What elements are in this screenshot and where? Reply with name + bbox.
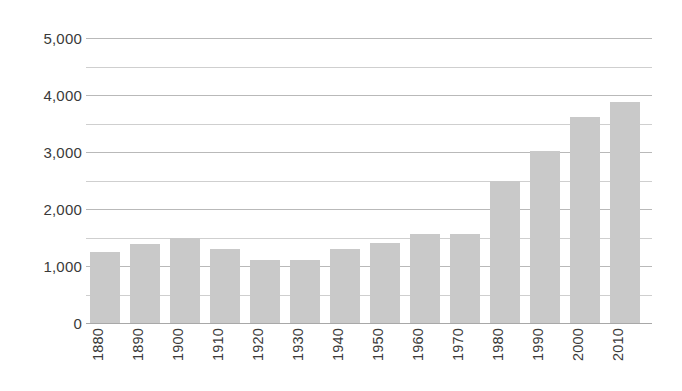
bar-1930: [290, 260, 320, 323]
x-axis-labels: 1880189019001910192019301940195019601970…: [86, 328, 652, 388]
bar-2010: [610, 102, 640, 323]
x-tick-label-1930: 1930: [290, 328, 320, 361]
y-tick-label-2000: 2,000: [0, 201, 82, 218]
bar-1960: [410, 234, 440, 323]
bar-1950: [370, 243, 400, 323]
bar-chart: 01,0002,0003,0004,0005,000 1880189019001…: [0, 0, 682, 391]
x-tick-label-1960: 1960: [410, 328, 440, 361]
x-tick-label-2010: 2010: [610, 328, 640, 361]
x-tick-label-1900: 1900: [170, 328, 200, 361]
y-tick-label-5000: 5,000: [0, 30, 82, 47]
bar-1940: [330, 249, 360, 323]
axis-baseline: [86, 323, 652, 324]
bars: [86, 38, 652, 323]
bar-1910: [210, 249, 240, 323]
x-tick-label-1980: 1980: [490, 328, 520, 361]
x-tick-label-1910: 1910: [210, 328, 240, 361]
x-tick-label-1990: 1990: [530, 328, 560, 361]
y-tick-label-3000: 3,000: [0, 144, 82, 161]
y-tick-label-4000: 4,000: [0, 87, 82, 104]
bar-1990: [530, 151, 560, 323]
x-tick-label-1970: 1970: [450, 328, 480, 361]
x-tick-label-1940: 1940: [330, 328, 360, 361]
bar-1890: [130, 244, 160, 323]
y-axis-labels: 01,0002,0003,0004,0005,000: [0, 0, 82, 391]
bar-1980: [490, 181, 520, 324]
x-tick-label-1880: 1880: [90, 328, 120, 361]
bar-1880: [90, 252, 120, 323]
bar-1900: [170, 238, 200, 324]
x-tick-label-1920: 1920: [250, 328, 280, 361]
x-tick-label-2000: 2000: [570, 328, 600, 361]
x-tick-label-1950: 1950: [370, 328, 400, 361]
y-tick-label-0: 0: [0, 315, 82, 332]
plot-area: [86, 38, 652, 323]
bar-1970: [450, 234, 480, 323]
y-tick-label-1000: 1,000: [0, 258, 82, 275]
bar-1920: [250, 260, 280, 323]
x-tick-label-1890: 1890: [130, 328, 160, 361]
bar-2000: [570, 117, 600, 323]
